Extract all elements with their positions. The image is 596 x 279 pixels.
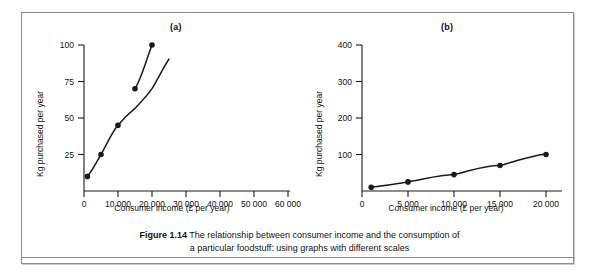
figure-caption-line1: The relationship between consumer income… xyxy=(189,230,459,240)
panel-b-ytick-300: 300 xyxy=(320,77,352,87)
panel-b-x-axis-label: Consumer income (£ per year) xyxy=(336,203,556,213)
caption-divider xyxy=(22,257,575,258)
panel-b-ytick-400: 400 xyxy=(320,40,352,50)
panel-b-ytick-100: 100 xyxy=(320,150,352,160)
panel-b-y-ticks xyxy=(356,45,362,155)
panel-b-x-ticks xyxy=(362,191,546,197)
panel-a-data-line xyxy=(87,59,169,176)
chart-panel-a: (a) xyxy=(22,13,300,225)
panel-b-ytick-200: 200 xyxy=(320,113,352,123)
panel-a-ytick-100: 100 xyxy=(42,40,74,50)
panel-a-y-ticks xyxy=(78,45,84,155)
figure-caption-line2: a particular foodstuff: using graphs wit… xyxy=(190,243,409,253)
panel-a-data-points xyxy=(85,42,172,179)
figure-frame: (a) xyxy=(21,12,574,264)
figure-caption-label: Figure 1.14 xyxy=(139,230,187,240)
figure-caption: Figure 1.14 The relationship between con… xyxy=(52,229,547,255)
panel-a-x-ticks xyxy=(84,191,288,197)
panel-a-ytick-50: 50 xyxy=(42,113,74,123)
panel-a-data-line-upper xyxy=(135,45,152,89)
panel-a-ytick-75: 75 xyxy=(42,77,74,87)
panel-a-y-axis-label: Kg purchased per year xyxy=(35,91,45,177)
panel-b-data-line xyxy=(371,154,546,187)
panel-a-ytick-25: 25 xyxy=(42,150,74,160)
chart-panel-b: (b) xyxy=(300,13,575,225)
panel-a-x-axis-label: Consumer income (£ per year) xyxy=(62,203,282,213)
panel-b-y-axis-label: Kg purchased per year xyxy=(314,91,324,177)
panel-a-data-points-final xyxy=(132,42,155,91)
